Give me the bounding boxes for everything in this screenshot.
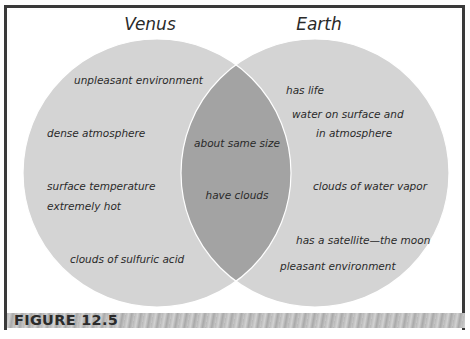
earth-item: clouds of water vapor: [313, 180, 428, 192]
earth-title: Earth: [296, 14, 342, 34]
earth-item: has a satellite—the moon: [296, 234, 430, 246]
venus-item: clouds of sulfuric acid: [70, 253, 185, 265]
venus-title: Venus: [124, 14, 176, 34]
venn-diagram: Venus Earth unpleasant environment dense…: [0, 0, 470, 339]
earth-item: pleasant environment: [279, 260, 396, 272]
figure-caption: FIGURE 12.5: [14, 312, 118, 328]
shared-item: about same size: [194, 137, 280, 149]
venus-item: unpleasant environment: [74, 74, 204, 86]
venus-item: surface temperature: [47, 180, 155, 192]
earth-item: in atmosphere: [316, 127, 392, 139]
venus-item: dense atmosphere: [47, 127, 145, 139]
earth-item: water on surface and: [292, 108, 404, 120]
venus-item: extremely hot: [47, 200, 122, 212]
shared-item: have clouds: [205, 189, 269, 201]
earth-item: has life: [286, 84, 324, 96]
